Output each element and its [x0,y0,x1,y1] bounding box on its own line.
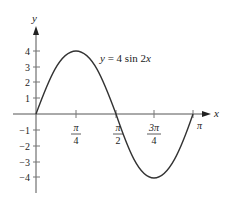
x-tick-num: 3π [148,122,160,133]
x-tick-den: 4 [152,135,157,146]
y-axis-label: y [31,12,37,24]
y-tick-label: −4 [19,172,30,183]
x-tick-label: π [197,120,203,131]
y-tick-label: 1 [25,93,30,104]
y-axis-arrow-icon [33,26,39,35]
x-axis-label: x [213,107,219,119]
x-tick-num: π [73,122,79,133]
x-axis-arrow-icon [202,111,211,117]
x-tick-den: 2 [116,135,121,146]
chart: y x 4 3 2 1 −1 −2 −3 −4 π 4 π 2 [0,0,228,207]
y-tick-label: 2 [25,77,30,88]
x-tick-den: 4 [74,135,79,146]
y-tick-label: 4 [25,46,30,57]
equation-mid: = 4 sin 2 [105,52,146,64]
equation-label: y = 4 sin 2x [99,52,151,64]
y-tick-label: −3 [19,157,30,168]
y-tick-label: 3 [25,62,30,73]
equation-var: x [145,52,151,64]
y-tick-label: −2 [19,141,30,152]
y-tick-label: −1 [19,125,30,136]
